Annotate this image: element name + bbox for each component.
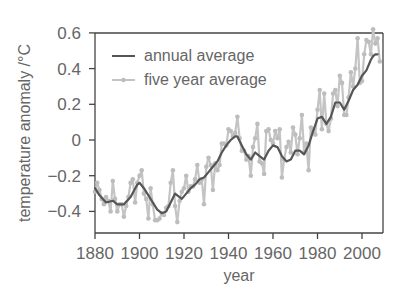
x-axis-title: year [223, 267, 255, 284]
x-tick-label: 1940 [210, 244, 248, 263]
x-tick-label: 1920 [165, 244, 203, 263]
y-axis-title: temperature anomaly /°C [16, 44, 33, 222]
x-tick-label: 1900 [121, 244, 159, 263]
y-axis-ticks: 0.60.40.20−0.2−0.4 [47, 24, 95, 222]
legend-label-annual-average: annual average [144, 47, 254, 64]
x-axis-ticks: 1880190019201940196019802000 [76, 233, 381, 263]
legend: annual average five year average [112, 47, 267, 88]
x-tick-label: 1980 [299, 244, 337, 263]
x-tick-label: 1960 [254, 244, 292, 263]
y-tick-label: −0.4 [47, 202, 81, 221]
x-tick-label: 1880 [76, 244, 114, 263]
y-tick-label: −0.2 [47, 167, 81, 186]
temperature-anomaly-chart: 0.60.40.20−0.2−0.4 188019001920194019601… [0, 0, 403, 302]
y-tick-label: 0 [72, 131, 81, 150]
x-tick-label: 2000 [343, 244, 381, 263]
legend-label-five-year-average: five year average [144, 71, 267, 88]
y-tick-label: 0.4 [57, 60, 81, 79]
y-tick-label: 0.2 [57, 95, 81, 114]
y-tick-label: 0.6 [57, 24, 81, 43]
light-dotted-line-icon [112, 78, 135, 82]
